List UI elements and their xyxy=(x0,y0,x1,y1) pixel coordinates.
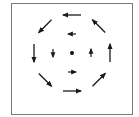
center-point xyxy=(70,51,74,55)
vector-field-diagram xyxy=(0,0,139,117)
diagram-frame xyxy=(12,4,133,115)
